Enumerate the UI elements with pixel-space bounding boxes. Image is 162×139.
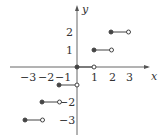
y-axis-arrow-icon xyxy=(75,5,79,11)
y-tick: −3 xyxy=(59,114,75,127)
x-tick: −2 xyxy=(38,71,54,84)
x-tick: −3 xyxy=(20,71,36,84)
x-tick: 3 xyxy=(126,71,133,84)
step-function-graph: x y −3 −2 −1 1 2 3 2 1 −2 −3 xyxy=(0,0,162,139)
x-axis-label: x xyxy=(151,70,158,83)
y-axis-label: y xyxy=(81,3,89,16)
x-axis-arrow-icon xyxy=(144,65,150,69)
y-tick: 2 xyxy=(66,26,73,39)
y-tick: 1 xyxy=(66,44,73,57)
x-tick: −1 xyxy=(55,71,71,84)
x-tick: 2 xyxy=(109,71,116,84)
x-tick: 1 xyxy=(91,71,98,84)
